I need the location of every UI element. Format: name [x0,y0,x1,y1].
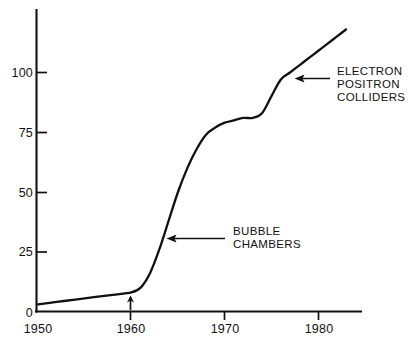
y-tick-label-25: 25 [19,245,33,259]
y-tick-marks [37,73,48,253]
x-tick-labels: 1950 1960 1970 1980 [24,322,334,336]
bubble-chambers-label-line2: CHAMBERS [233,238,301,250]
x-tick-label-1960: 1960 [117,322,146,336]
epc-label-line2: POSITRON [337,78,400,90]
annotation-electron-positron-colliders: ELECTRON POSITRON COLLIDERS [295,65,406,103]
epc-label-line3: COLLIDERS [337,91,405,103]
y-tick-label-75: 75 [19,126,33,140]
y-tick-label-0: 0 [26,306,33,320]
line-chart: 100 75 50 25 0 1950 1960 1970 1980 [0,0,408,341]
x-tick-label-1950: 1950 [24,322,53,336]
x-tick-marks [131,312,319,321]
year-1960-up-arrow-marker [127,296,134,311]
y-tick-label-100: 100 [12,66,33,80]
bubble-chambers-label-line1: BUBBLE [233,225,280,237]
data-curve [38,29,346,304]
y-tick-labels: 100 75 50 25 0 [12,66,33,320]
x-tick-label-1980: 1980 [305,322,334,336]
y-tick-label-50: 50 [19,186,33,200]
epc-label-line1: ELECTRON [337,65,402,77]
chart-container: 100 75 50 25 0 1950 1960 1970 1980 [0,0,408,341]
x-tick-label-1970: 1970 [211,322,240,336]
annotation-bubble-chambers: BUBBLE CHAMBERS [167,225,301,250]
